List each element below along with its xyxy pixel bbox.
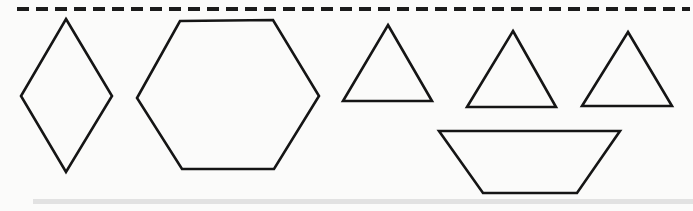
- figure-canvas: [0, 0, 693, 211]
- triangle-right-shape: [582, 32, 672, 106]
- trapezoid-shape: [439, 131, 620, 193]
- triangle-left-shape: [343, 25, 432, 101]
- rhombus-shape: [21, 19, 112, 172]
- bottom-gray-rule: [33, 199, 693, 204]
- shapes-diagram: [0, 0, 693, 211]
- hexagon-shape: [137, 20, 319, 169]
- triangle-middle-shape: [467, 31, 556, 107]
